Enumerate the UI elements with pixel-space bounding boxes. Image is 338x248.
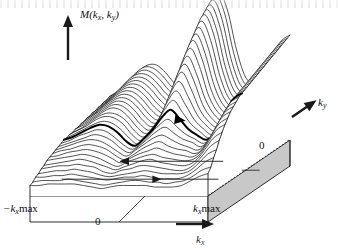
m-axis-label: M(kx, ky): [79, 8, 119, 22]
ky-axis-label: ky: [318, 96, 327, 110]
tick-kx-zero: 0: [95, 215, 101, 227]
surface-plot-canvas: M(kx, ky) kx ky −kxmax 0 kxmax 0: [0, 0, 338, 248]
surface-plot-figure: M(kx, ky) kx ky −kxmax 0 kxmax 0: [0, 0, 338, 248]
tick-ky-zero: 0: [259, 139, 265, 151]
kx-axis-label: kx: [196, 233, 205, 247]
